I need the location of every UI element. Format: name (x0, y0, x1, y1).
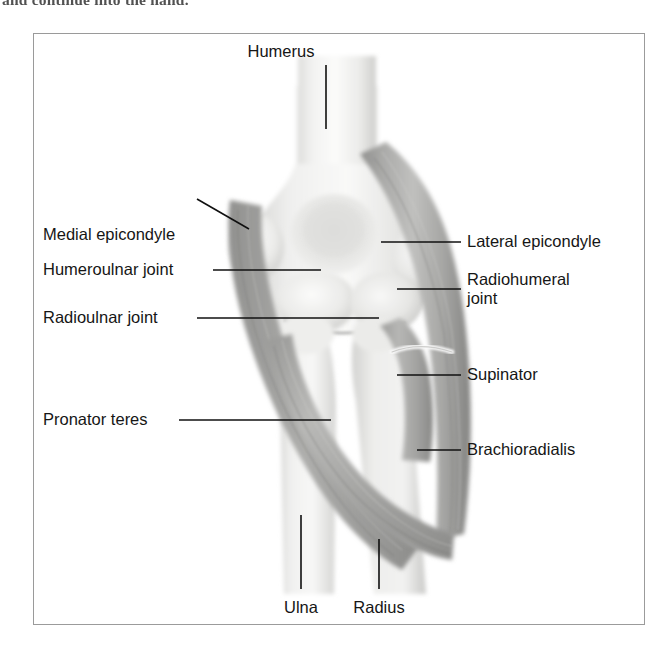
label-radiohumeral-joint: Radiohumeral joint (467, 270, 617, 308)
label-humeroulnar-joint: Humeroulnar joint (43, 260, 173, 279)
label-ulna: Ulna (284, 598, 318, 617)
label-lateral-epicondyle: Lateral epicondyle (467, 232, 601, 251)
label-humerus: Humerus (248, 42, 315, 61)
label-radioulnar-joint: Radioulnar joint (43, 308, 158, 327)
label-radiohumeral-line-1: Radiohumeral (467, 270, 570, 288)
label-pronator-teres: Pronator teres (43, 410, 148, 429)
label-brachioradialis: Brachioradialis (467, 440, 575, 459)
anatomy-illustration (34, 34, 646, 626)
label-radiohumeral-line-2: joint (467, 289, 497, 307)
anatomy-group (34, 34, 646, 626)
label-medial-epicondyle: Medial epicondyle (43, 225, 175, 244)
caption-strip: and continue into the hand. (0, 0, 671, 11)
scan-grain (34, 34, 646, 626)
label-radius: Radius (353, 598, 404, 617)
label-supinator: Supinator (467, 365, 538, 384)
caption-text: and continue into the hand. (0, 0, 671, 9)
figure-frame: Humerus Medial epicondyle Humeroulnar jo… (33, 33, 645, 625)
